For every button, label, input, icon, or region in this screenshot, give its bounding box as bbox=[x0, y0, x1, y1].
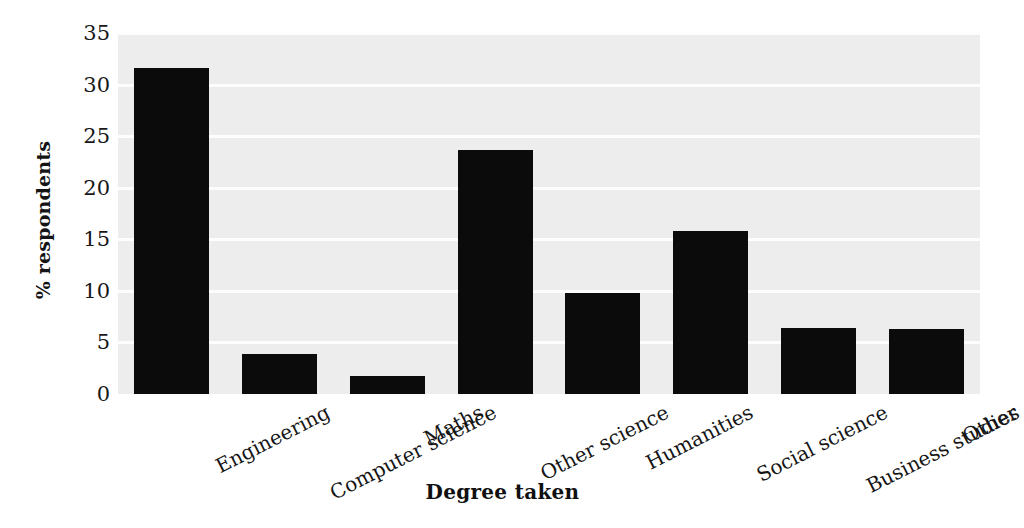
x-tick-label: Engineering bbox=[211, 400, 333, 478]
x-axis-title: Degree taken bbox=[0, 480, 1005, 504]
x-tick-label: Other bbox=[959, 400, 1022, 448]
